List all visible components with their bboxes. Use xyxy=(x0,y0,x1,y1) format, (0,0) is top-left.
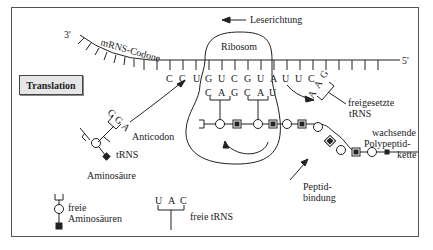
amino-acid-label: Aminosäure xyxy=(87,170,136,181)
free-amino-acids-label-2: Aminosäuren xyxy=(68,213,122,224)
svg-text:C: C xyxy=(166,73,173,84)
svg-text:C: C xyxy=(244,87,251,98)
ribosome-label: Ribosom xyxy=(221,41,257,52)
peptide-bond-label-2: bindung xyxy=(303,192,336,203)
trna-label: tRNS xyxy=(116,149,138,160)
reading-direction-label: Leserichtung xyxy=(250,14,302,25)
svg-text:U: U xyxy=(269,87,277,98)
svg-text:U: U xyxy=(295,73,303,84)
svg-text:G: G xyxy=(244,73,251,84)
mrna-codons-label: mRNS-Codone xyxy=(99,36,162,64)
svg-text:U: U xyxy=(282,73,290,84)
peptide-bond-label-1: Peptid- xyxy=(303,181,332,192)
svg-text:A: A xyxy=(270,73,278,84)
ribosome-anticodons: C A G C A U xyxy=(205,87,277,98)
svg-text:G: G xyxy=(231,87,238,98)
free-trna-anticodon: U A C xyxy=(155,195,187,206)
three-prime-label: 3' xyxy=(64,29,71,40)
svg-text:C: C xyxy=(231,73,238,84)
svg-text:G: G xyxy=(205,73,212,84)
svg-text:A: A xyxy=(311,78,325,90)
mrna-bases: C C U G U C G U A U U C xyxy=(166,73,315,84)
svg-text:A: A xyxy=(120,121,133,134)
title-box: Translation xyxy=(19,75,83,95)
svg-text:C: C xyxy=(205,87,212,98)
growing-chain-label-2: Polypeptid- xyxy=(364,138,411,149)
free-trna-label: freie tRNS xyxy=(190,211,233,222)
svg-text:U: U xyxy=(218,73,226,84)
five-prime-label: 5' xyxy=(402,55,409,66)
translation-diagram: 3' mRNS-Codone 5' Leserichtung Ribosom C… xyxy=(0,0,433,250)
svg-text:C: C xyxy=(180,195,187,206)
anticodon-label: Anticodon xyxy=(132,131,174,142)
svg-text:U: U xyxy=(257,73,265,84)
growing-chain-label-3: kette xyxy=(397,149,417,160)
svg-text:U: U xyxy=(193,73,201,84)
svg-text:A: A xyxy=(218,87,226,98)
svg-text:G: G xyxy=(317,68,330,80)
svg-text:U: U xyxy=(155,195,163,206)
svg-text:A: A xyxy=(168,195,176,206)
released-trna-label-2: tRNS xyxy=(349,108,371,119)
svg-text:A: A xyxy=(257,87,265,98)
growing-chain-label-1: wachsende xyxy=(372,127,416,138)
svg-text:C: C xyxy=(179,73,186,84)
released-trna-label-1: freigesetzte xyxy=(348,97,395,108)
free-amino-acids-label-1: freie xyxy=(68,202,87,213)
